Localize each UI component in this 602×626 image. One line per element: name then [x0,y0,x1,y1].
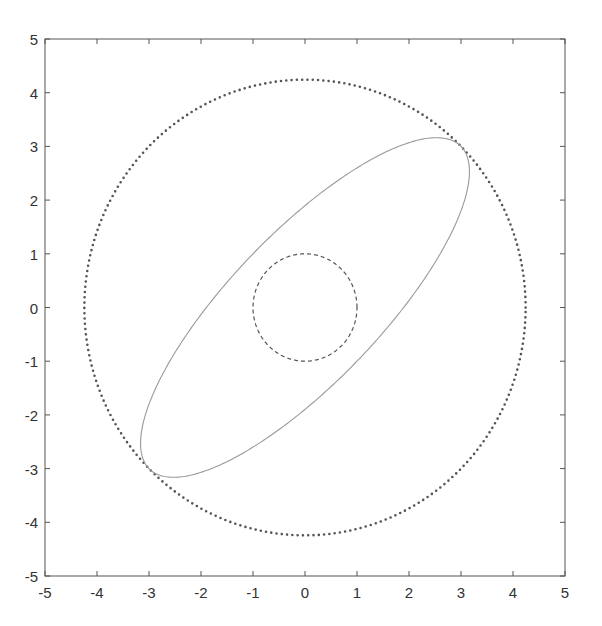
x-tick-label: -2 [194,584,207,601]
y-tick-label: 1 [30,246,38,263]
y-tick-label: 0 [30,300,38,317]
y-tick-label: -5 [25,568,38,585]
x-tick-label: 0 [301,584,309,601]
x-tick-label: 1 [353,584,361,601]
plot-frame [45,39,565,576]
y-tick-label: 3 [30,138,38,155]
x-tick-label: 4 [509,584,517,601]
y-tick-label: 5 [30,31,38,48]
outer-circle-dotted [84,80,525,536]
y-tick-label: -4 [25,514,38,531]
chart: -5-4-3-2-1012345-5-4-3-2-1012345 [0,0,602,626]
y-tick-label: 4 [30,85,38,102]
x-tick-label: -4 [90,584,103,601]
ellipse-solid [141,138,470,478]
x-tick-label: 3 [457,584,465,601]
x-tick-label: -3 [142,584,155,601]
x-tick-label: -1 [246,584,259,601]
y-tick-label: -3 [25,461,38,478]
x-tick-label: 2 [405,584,413,601]
unit-circle-dashed [253,254,357,361]
y-tick-label: -1 [25,353,38,370]
y-tick-label: -2 [25,407,38,424]
y-tick-label: 2 [30,192,38,209]
x-tick-label: 5 [561,584,569,601]
x-tick-label: -5 [38,584,51,601]
